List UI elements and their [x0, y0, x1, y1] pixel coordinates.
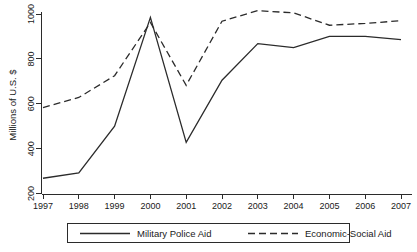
x-axis-ticks: 1997199819992000200120022003200420052006…: [33, 195, 411, 212]
series-lines: [43, 11, 401, 179]
y-tick-label: 800: [26, 51, 36, 66]
chart-figure: Millions of U.S. $ 2004006008001000 1997…: [0, 0, 417, 252]
x-tick-label: 1999: [105, 201, 125, 211]
y-tick-label: 1000: [26, 4, 36, 24]
x-tick-label: 2007: [391, 201, 411, 211]
x-tick-label: 2000: [140, 201, 160, 211]
x-tick-label: 2005: [319, 201, 339, 211]
x-tick-label: 2001: [176, 201, 196, 211]
chart-legend: Military Police AidEconomic-Social Aid: [68, 224, 392, 243]
y-axis-title: Millions of U.S. $: [7, 69, 18, 141]
x-tick-label: 2003: [248, 201, 268, 211]
x-tick-label: 2006: [355, 201, 375, 211]
y-tick-label: 400: [26, 141, 36, 156]
y-tick-label: 600: [26, 96, 36, 111]
y-axis-title-text: Millions of U.S. $: [7, 69, 18, 141]
legend-label-2: Economic-Social Aid: [305, 228, 392, 239]
line-chart: Millions of U.S. $ 2004006008001000 1997…: [0, 0, 417, 252]
y-axis-ticks: 2004006008001000: [26, 4, 41, 201]
x-tick-label: 2002: [212, 201, 232, 211]
x-tick-label: 1998: [69, 201, 89, 211]
series-line-economic-social-aid: [43, 11, 401, 108]
series-line-military-police-aid: [43, 17, 401, 178]
x-tick-label: 2004: [284, 201, 304, 211]
y-tick-label: 200: [26, 186, 36, 201]
x-tick-label: 1997: [33, 201, 53, 211]
legend-label-1: Military Police Aid: [137, 228, 211, 239]
